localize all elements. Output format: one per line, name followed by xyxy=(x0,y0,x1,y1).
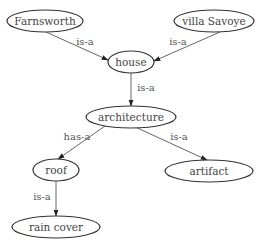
arrow-line xyxy=(154,32,220,61)
node-rain-cover: rain cover xyxy=(12,216,100,238)
edge-farnsworth-to-house: is-a xyxy=(46,32,108,60)
edge-label: is-a xyxy=(169,36,187,47)
edge-architecture-to-artifact: is-a xyxy=(133,126,207,160)
node-label: house xyxy=(115,56,146,68)
node-artifact: artifact xyxy=(165,160,253,182)
node-roof: roof xyxy=(33,159,79,181)
node-villa-savoye: villa Savoye xyxy=(174,10,254,32)
edge-architecture-to-roof: has-a xyxy=(58,126,105,159)
node-label: artifact xyxy=(189,165,229,177)
node-farnsworth: Farnsworth xyxy=(7,10,83,32)
edge-label: is-a xyxy=(33,191,51,202)
edge-label: has-a xyxy=(64,131,91,142)
edge-villa-savoye-to-house: is-a xyxy=(154,32,220,61)
node-label: villa Savoye xyxy=(181,15,245,27)
node-house: house xyxy=(108,51,154,73)
semantic-network-diagram: is-ais-ais-ahas-ais-ais-a Farnsworthvill… xyxy=(0,0,262,248)
edge-label: is-a xyxy=(137,82,155,93)
edge-label: is-a xyxy=(76,36,94,47)
nodes: Farnsworthvilla Savoyehousearchitecturer… xyxy=(7,10,254,238)
node-architecture: architecture xyxy=(86,106,176,128)
node-label: roof xyxy=(45,164,68,176)
edge-roof-to-rain-cover: is-a xyxy=(33,181,56,216)
node-label: Farnsworth xyxy=(14,15,76,27)
edge-label: is-a xyxy=(170,131,188,142)
node-label: rain cover xyxy=(29,221,84,233)
node-label: architecture xyxy=(98,111,164,123)
edge-house-to-architecture: is-a xyxy=(131,73,155,106)
